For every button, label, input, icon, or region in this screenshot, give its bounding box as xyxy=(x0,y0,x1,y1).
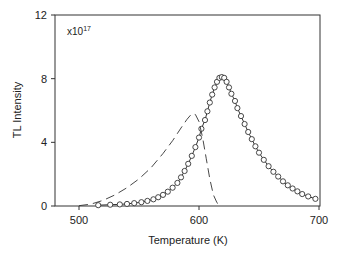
data-point-marker xyxy=(124,201,129,206)
measured-curve-line xyxy=(98,77,315,205)
x-tick-label: 600 xyxy=(190,214,208,226)
data-point-marker xyxy=(280,179,285,184)
data-point-marker xyxy=(193,145,198,150)
data-point-marker xyxy=(202,117,207,122)
data-point-marker xyxy=(160,192,165,197)
y-tick-label: 12 xyxy=(35,9,47,21)
data-point-marker xyxy=(205,109,210,114)
data-point-marker xyxy=(145,198,150,203)
data-point-marker xyxy=(224,79,229,84)
data-point-marker xyxy=(306,194,311,199)
data-point-marker xyxy=(178,175,183,180)
data-point-marker xyxy=(132,201,137,206)
data-point-marker xyxy=(232,98,237,103)
x-axis: 500600700 xyxy=(70,206,328,226)
x-axis-label: Temperature (K) xyxy=(148,234,227,246)
data-point-marker xyxy=(196,135,201,140)
data-point-marker xyxy=(175,180,180,185)
data-point-marker xyxy=(207,100,212,105)
y-tick-label: 0 xyxy=(41,200,47,212)
data-point-marker xyxy=(189,153,194,158)
data-point-marker xyxy=(256,150,261,155)
tl-glow-curve-chart: 04812 500600700 TL Intensity Temperature… xyxy=(0,0,345,257)
data-point-marker xyxy=(108,202,113,207)
multiplier-exponent: 17 xyxy=(83,25,91,32)
y-tick-label: 8 xyxy=(41,73,47,85)
data-point-marker xyxy=(242,121,247,126)
data-point-marker xyxy=(139,200,144,205)
data-point-marker xyxy=(300,191,305,196)
x-tick-label: 500 xyxy=(70,214,88,226)
y-axis: 04812 xyxy=(35,9,55,212)
data-point-marker xyxy=(266,164,271,169)
data-point-marker xyxy=(210,92,215,97)
y-axis-label: TL Intensity xyxy=(11,81,23,138)
data-point-marker xyxy=(249,137,254,142)
data-point-marker xyxy=(271,169,276,174)
data-point-marker xyxy=(246,129,251,134)
x-tick-label: 700 xyxy=(310,214,328,226)
data-point-marker xyxy=(290,186,295,191)
data-point-marker xyxy=(261,157,266,162)
data-point-marker xyxy=(235,106,240,111)
series-group xyxy=(79,74,318,207)
data-point-marker xyxy=(117,202,122,207)
data-point-marker xyxy=(226,85,231,90)
data-point-marker xyxy=(212,85,217,90)
y-tick-label: 4 xyxy=(41,136,47,148)
data-point-marker xyxy=(295,189,300,194)
data-point-marker xyxy=(229,91,234,96)
data-point-marker xyxy=(276,174,281,179)
data-point-marker xyxy=(96,203,101,208)
data-point-marker xyxy=(285,183,290,188)
data-point-marker xyxy=(182,168,187,173)
multiplier-label: x1017 xyxy=(67,25,91,37)
data-point-marker xyxy=(186,161,191,166)
data-point-marker xyxy=(253,144,258,149)
data-point-marker xyxy=(170,185,175,190)
data-point-marker xyxy=(313,196,318,201)
multiplier-base: x10 xyxy=(67,26,84,37)
data-point-marker xyxy=(238,113,243,118)
data-point-marker xyxy=(165,189,170,194)
